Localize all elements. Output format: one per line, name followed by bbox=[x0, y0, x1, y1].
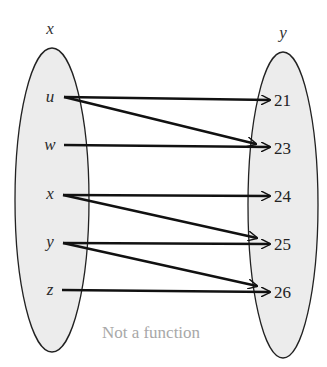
range-element-25: 25 bbox=[274, 235, 291, 254]
arrow-x-to-24 bbox=[63, 195, 270, 196]
arrow-w-to-23 bbox=[64, 145, 270, 147]
caption-not-a-function: Not a function bbox=[102, 323, 201, 342]
range-set-title: y bbox=[277, 23, 287, 42]
range-element-21: 21 bbox=[274, 91, 291, 110]
domain-element-y: y bbox=[44, 232, 54, 251]
arrow-z-to-26 bbox=[62, 290, 270, 292]
domain-set-title: x bbox=[45, 19, 54, 38]
mapping-arrows bbox=[62, 97, 270, 292]
range-element-24: 24 bbox=[274, 187, 292, 206]
mapping-diagram: x u w x y z y 21 23 24 25 26 Not a funct… bbox=[0, 0, 327, 367]
arrow-y-to-25 bbox=[63, 243, 270, 244]
range-element-23: 23 bbox=[274, 139, 291, 158]
arrow-x-to-25 bbox=[63, 195, 257, 238]
domain-set: x u w x y z bbox=[15, 19, 89, 352]
arrow-y-to-26 bbox=[63, 243, 257, 286]
range-element-26: 26 bbox=[274, 283, 291, 302]
domain-element-u: u bbox=[46, 87, 55, 106]
domain-element-x: x bbox=[45, 184, 54, 203]
domain-element-w: w bbox=[44, 135, 56, 154]
domain-element-z: z bbox=[46, 280, 54, 299]
arrow-u-to-23 bbox=[64, 97, 256, 144]
arrow-u-to-21 bbox=[64, 97, 270, 100]
range-set: y 21 23 24 25 26 bbox=[248, 23, 318, 358]
